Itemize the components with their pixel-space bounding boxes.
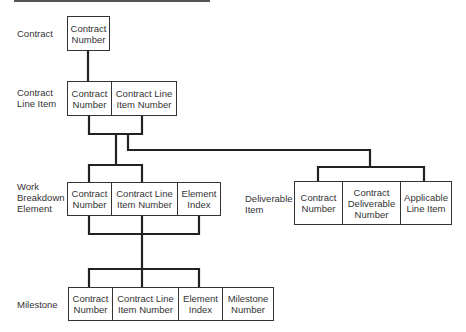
field-applicable-line-item: Applicable Line Item [400,182,451,224]
record-box-milestone: Contract Number Contract Line Item Numbe… [68,287,274,321]
record-box-contract-line-item: Contract Number Contract Line Item Numbe… [67,81,177,116]
field-contract-number: Contract Number [68,183,111,215]
record-label-contract: Contract [17,28,53,39]
field-milestone-number: Milestone Number [222,288,273,320]
record-label-work-breakdown-element: Work Breakdown Element [17,181,65,214]
record-label-milestone: Milestone [17,299,58,310]
field-element-index: Element Index [177,183,220,215]
field-contract-deliverable-number: Contract Deliverable Number [342,182,400,224]
field-contract-number: Contract Number [68,82,111,115]
field-contract-number: Contract Number [295,182,342,224]
field-contract-number: Contract Number [69,288,112,320]
record-box-contract: Contract Number [67,16,110,51]
field-contract-line-item-number: Contract Line Item Number [111,183,177,215]
record-box-deliverable-item: Contract Number Contract Deliverable Num… [294,181,452,225]
record-label-contract-line-item: Contract Line Item [17,87,56,109]
field-contract-line-item-number: Contract Line Item Number [112,288,178,320]
record-label-deliverable-item: Deliverable Item [245,193,293,215]
field-contract-line-item-number: Contract Line Item Number [111,82,176,115]
field-element-index: Element Index [178,288,222,320]
record-box-work-breakdown-element: Contract Number Contract Line Item Numbe… [67,182,221,216]
field-contract-number: Contract Number [68,17,109,50]
